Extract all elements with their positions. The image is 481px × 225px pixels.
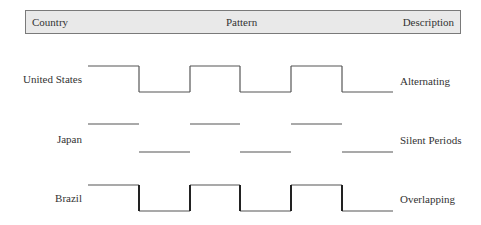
country-label-japan: Japan bbox=[57, 132, 82, 146]
waveform-japan bbox=[88, 124, 393, 152]
country-label-brazil: Brazil bbox=[55, 191, 82, 205]
country-label-united-states: United States bbox=[23, 72, 82, 86]
description-alternating: Alternating bbox=[400, 74, 450, 88]
waveform-brazil bbox=[88, 185, 393, 211]
description-overlapping: Overlapping bbox=[400, 192, 455, 206]
waveform-united-states bbox=[88, 66, 393, 92]
description-silent-periods: Silent Periods bbox=[400, 133, 461, 147]
